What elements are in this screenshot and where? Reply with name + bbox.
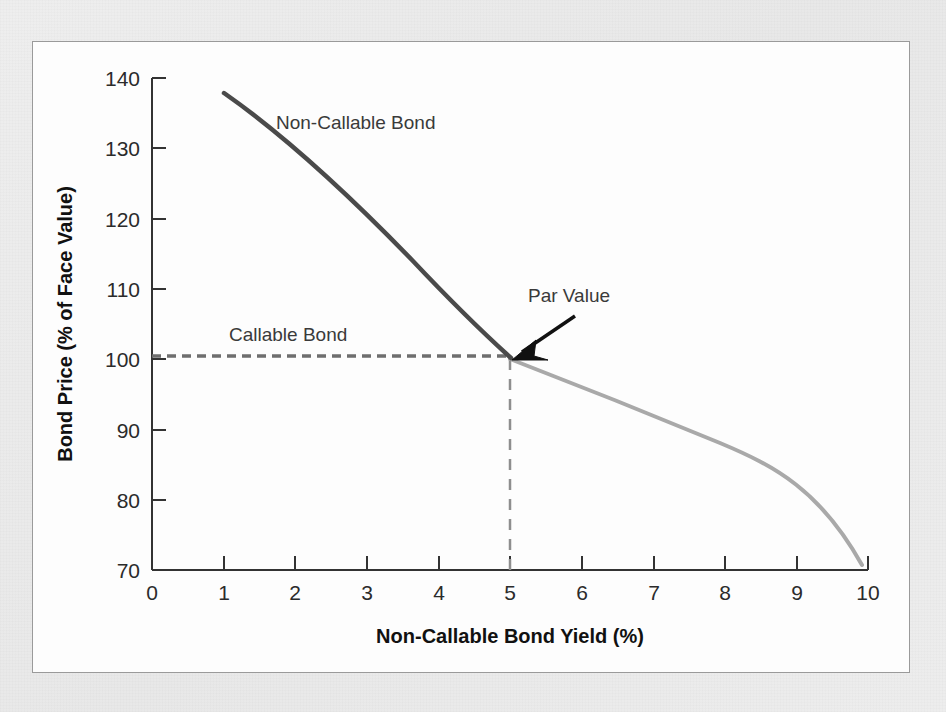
x-tick-label-7: 7 [648, 581, 660, 604]
y-tick-label-130: 130 [105, 137, 140, 160]
non-callable-bond-line-below-par [510, 359, 862, 565]
y-tick-label-110: 110 [107, 278, 140, 301]
y-axis-title: Bond Price (% of Face Value) [54, 186, 76, 462]
x-axis-tick-labels: 0 1 2 3 4 5 6 7 8 9 10 [146, 581, 880, 604]
y-tick-label-100: 100 [105, 348, 140, 371]
chart-svg: 140 130 120 110 100 90 80 70 0 1 2 3 4 [0, 0, 946, 712]
y-axis-tick-labels: 140 130 120 110 100 90 80 70 [105, 67, 140, 582]
x-tick-label-5: 5 [504, 581, 516, 604]
x-axis-title: Non-Callable Bond Yield (%) [376, 625, 644, 647]
x-tick-label-8: 8 [719, 581, 731, 604]
y-tick-label-140: 140 [105, 67, 140, 90]
x-tick-label-0: 0 [146, 581, 158, 604]
y-tick-label-90: 90 [117, 419, 140, 442]
y-tick-label-80: 80 [117, 489, 140, 512]
par-value-arrow-head [512, 340, 548, 360]
x-tick-label-9: 9 [791, 581, 803, 604]
x-tick-label-3: 3 [361, 581, 373, 604]
par-value-annotation: Par Value [512, 285, 610, 360]
x-tick-label-1: 1 [218, 581, 230, 604]
y-tick-label-70: 70 [117, 559, 140, 582]
x-tick-label-2: 2 [289, 581, 301, 604]
y-axis-ticks [152, 148, 166, 500]
y-tick-label-120: 120 [105, 208, 140, 231]
series-label-non-callable-bond: Non-Callable Bond [276, 112, 436, 133]
bond-price-yield-chart: 140 130 120 110 100 90 80 70 0 1 2 3 4 [0, 0, 946, 712]
x-tick-label-10: 10 [856, 581, 879, 604]
series-label-callable-bond: Callable Bond [229, 324, 347, 345]
annotation-label-par-value: Par Value [528, 285, 610, 306]
x-tick-label-6: 6 [576, 581, 588, 604]
x-tick-label-4: 4 [433, 581, 445, 604]
